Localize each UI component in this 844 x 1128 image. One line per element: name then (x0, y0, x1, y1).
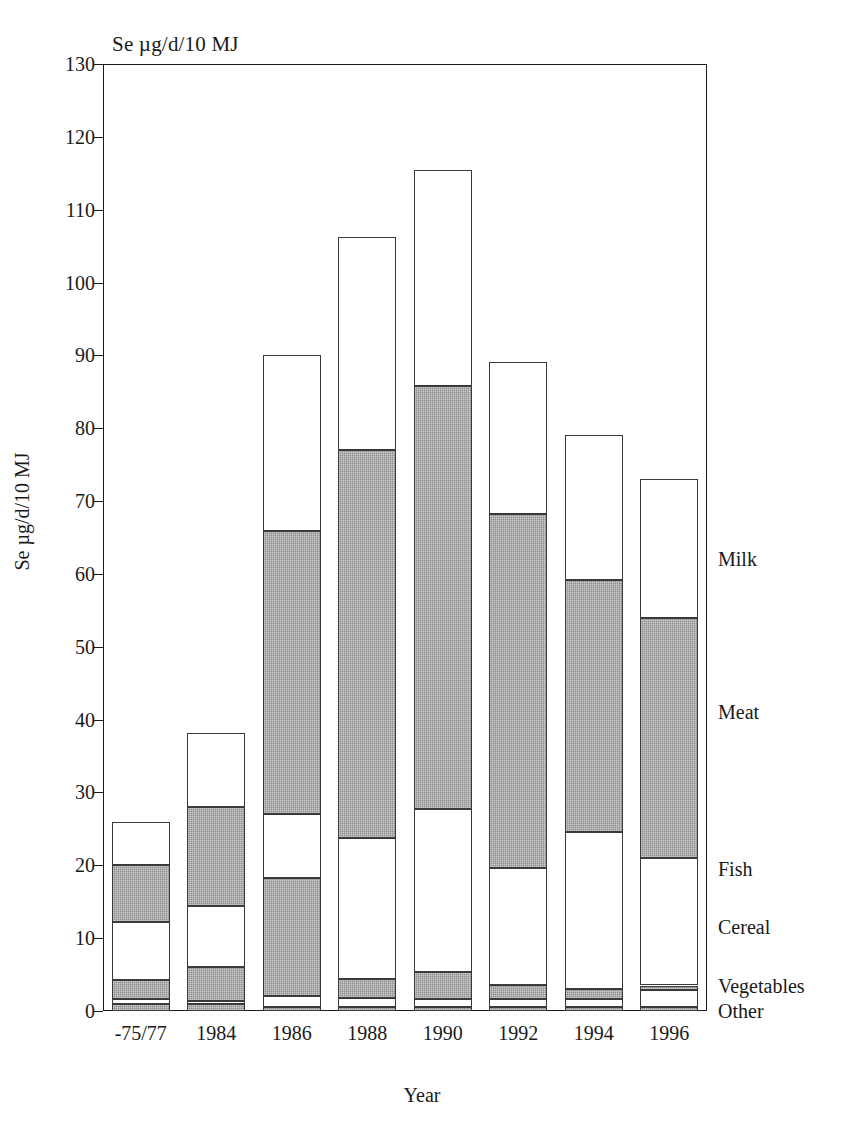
bar-segment-vegetables[interactable] (263, 996, 321, 1007)
bar-stack[interactable] (414, 64, 472, 1011)
bar-segment-fish[interactable] (489, 868, 547, 985)
bar-segment-fish[interactable] (263, 814, 321, 879)
bar-stack[interactable] (565, 64, 623, 1011)
y-tick-label: 70 (55, 491, 95, 511)
bar-segment-cereal[interactable] (489, 985, 547, 1000)
y-tick-label: 60 (55, 564, 95, 584)
bar-segment-vegetables[interactable] (489, 999, 547, 1006)
bar-stack[interactable] (263, 64, 321, 1011)
bar-segment-vegetables[interactable] (414, 999, 472, 1007)
bar-segment-milk[interactable] (489, 362, 547, 514)
y-tick-label: 10 (55, 928, 95, 948)
y-tick-mark (94, 283, 103, 284)
bar-segment-fish[interactable] (565, 832, 623, 989)
x-tick-label: 1990 (405, 1022, 481, 1045)
bar-segment-meat[interactable] (414, 386, 472, 809)
bar-segment-other[interactable] (414, 1007, 472, 1011)
legend-item-milk: Milk (718, 549, 757, 569)
bar-stack[interactable] (640, 64, 698, 1011)
bar-segment-milk[interactable] (187, 733, 245, 807)
bar-segment-vegetables[interactable] (565, 999, 623, 1007)
bar-stack[interactable] (112, 64, 170, 1011)
y-tick-mark (94, 1011, 103, 1012)
chart-title: Se µg/d/10 MJ (112, 32, 239, 57)
bar-segment-milk[interactable] (640, 479, 698, 618)
bar-segment-cereal[interactable] (414, 972, 472, 999)
bar-segment-meat[interactable] (565, 580, 623, 832)
y-tick-mark (94, 428, 103, 429)
y-tick-label: 20 (55, 855, 95, 875)
bar-segment-milk[interactable] (565, 435, 623, 580)
bar-stack[interactable] (489, 64, 547, 1011)
legend-item-other: Other (718, 1001, 764, 1021)
bar-segment-meat[interactable] (640, 618, 698, 858)
bar-segment-milk[interactable] (263, 355, 321, 531)
bar-segment-vegetables[interactable] (112, 999, 170, 1003)
y-tick-mark (94, 574, 103, 575)
bar-segment-milk[interactable] (338, 237, 396, 450)
y-tick-label: 100 (55, 273, 95, 293)
y-tick-label: 80 (55, 418, 95, 438)
x-tick-label: -75/77 (103, 1022, 179, 1045)
bar-segment-cereal[interactable] (640, 986, 698, 990)
bar-segment-cereal[interactable] (338, 979, 396, 998)
bar-segment-fish[interactable] (338, 838, 396, 979)
legend-item-cereal: Cereal (718, 917, 770, 937)
y-tick-mark (94, 938, 103, 939)
bar-segment-vegetables[interactable] (338, 998, 396, 1007)
y-tick-mark (94, 210, 103, 211)
bar-stack[interactable] (187, 64, 245, 1011)
bar-segment-meat[interactable] (112, 865, 170, 922)
y-tick-mark (94, 355, 103, 356)
y-tick-mark (94, 865, 103, 866)
y-tick-mark (94, 792, 103, 793)
y-tick-label: 0 (55, 1001, 95, 1021)
y-tick-mark (94, 501, 103, 502)
x-tick-label: 1988 (330, 1022, 406, 1045)
bar-segment-fish[interactable] (112, 922, 170, 980)
bar-segment-other[interactable] (187, 1004, 245, 1011)
bar-segment-vegetables[interactable] (640, 990, 698, 1007)
bar-segment-cereal[interactable] (187, 967, 245, 1001)
y-tick-label: 50 (55, 637, 95, 657)
bar-segment-fish[interactable] (414, 809, 472, 971)
bar-segment-other[interactable] (489, 1007, 547, 1011)
y-tick-mark (94, 64, 103, 65)
bar-segment-milk[interactable] (112, 822, 170, 865)
x-tick-label: 1994 (556, 1022, 632, 1045)
bar-segment-cereal[interactable] (263, 878, 321, 996)
legend-item-fish: Fish (718, 859, 752, 879)
y-tick-mark (94, 720, 103, 721)
bar-segment-fish[interactable] (187, 906, 245, 967)
x-tick-label: 1996 (632, 1022, 708, 1045)
bar-segment-other[interactable] (338, 1007, 396, 1011)
bar-segment-vegetables[interactable] (187, 1001, 245, 1004)
y-tick-mark (94, 647, 103, 648)
y-axis-label: Se µg/d/10 MJ (11, 312, 34, 712)
legend-item-vegetables: Vegetables (718, 976, 805, 996)
bar-segment-meat[interactable] (187, 807, 245, 906)
bar-segment-meat[interactable] (263, 531, 321, 814)
y-tick-label: 40 (55, 710, 95, 730)
y-tick-label: 120 (55, 127, 95, 147)
bar-segment-milk[interactable] (414, 170, 472, 386)
bar-segment-other[interactable] (263, 1007, 321, 1011)
y-tick-label: 30 (55, 782, 95, 802)
bar-segment-other[interactable] (112, 1004, 170, 1011)
bar-segment-cereal[interactable] (565, 989, 623, 998)
x-axis-label: Year (0, 1084, 844, 1107)
y-tick-label: 130 (55, 54, 95, 74)
bar-segment-meat[interactable] (338, 450, 396, 838)
y-tick-mark (94, 137, 103, 138)
bar-segment-other[interactable] (565, 1007, 623, 1011)
x-tick-label: 1984 (179, 1022, 255, 1045)
x-tick-label: 1986 (254, 1022, 330, 1045)
stacked-bar-chart: Se µg/d/10 MJ Se µg/d/10 MJ Year 0102030… (0, 0, 844, 1128)
bar-segment-cereal[interactable] (112, 980, 170, 999)
y-tick-label: 110 (55, 200, 95, 220)
bar-segment-fish[interactable] (640, 858, 698, 985)
legend-item-meat: Meat (718, 702, 759, 722)
bar-stack[interactable] (338, 64, 396, 1011)
bar-segment-other[interactable] (640, 1007, 698, 1011)
bar-segment-meat[interactable] (489, 514, 547, 868)
